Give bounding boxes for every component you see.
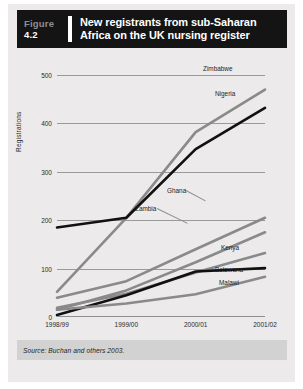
y-axis-title: Registrations: [15, 72, 22, 152]
figure-label: Figure: [24, 18, 68, 30]
figure-title-line1: New registrants from sub-Saharan: [80, 16, 257, 30]
series-label-kenya: Kenya: [221, 244, 239, 251]
y-tick-label-100: 100: [41, 265, 52, 272]
x-tick-label-2000-01: 2000/01: [184, 321, 208, 328]
x-tick-label-1999-00: 1999/00: [115, 321, 139, 328]
plot-region: 0100200300400500 1998/991999/002000/0120…: [57, 75, 265, 317]
chart-area: Registrations 0100200300400500 1998/9919…: [17, 56, 287, 334]
series-label-zambia: Zambia: [135, 205, 156, 212]
series-label-nigeria: Nigeria: [215, 89, 235, 96]
figure-number: 4.2: [24, 29, 68, 41]
y-tick-label-400: 400: [41, 120, 52, 127]
figure-title-line2: Africa on the UK nursing register: [80, 29, 257, 43]
header-divider: [68, 16, 72, 42]
y-tick-label-0: 0: [48, 314, 52, 321]
series-label-botswana: Botswana: [215, 266, 243, 273]
series-label-ghana: Ghana: [167, 186, 186, 193]
x-tick-label-1998-99: 1998/99: [45, 321, 69, 328]
x-tick-label-2001-02: 2001/02: [253, 321, 277, 328]
source-note: Source: Buchan and others 2003.: [17, 347, 124, 354]
figure-header: Figure 4.2 New registrants from sub-Saha…: [17, 10, 287, 48]
y-tick-label-500: 500: [41, 72, 52, 79]
y-tick-label-300: 300: [41, 168, 52, 175]
series-label-zimbabwe: Zimbabwe: [203, 64, 232, 71]
source-band: Source: Buchan and others 2003.: [17, 340, 287, 360]
figure-page: Figure 4.2 New registrants from sub-Saha…: [0, 0, 303, 389]
y-tick-label-200: 200: [41, 217, 52, 224]
x-axis-line: [57, 316, 265, 317]
figure-number-block: Figure 4.2: [17, 18, 68, 41]
figure-title: New registrants from sub-Saharan Africa …: [80, 16, 257, 43]
series-label-malawi: Malawi: [219, 278, 239, 285]
